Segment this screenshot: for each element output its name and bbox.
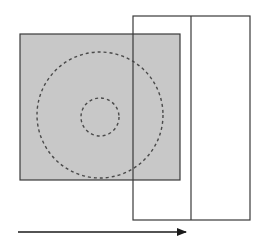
gray-square [20, 34, 180, 180]
diagram-canvas [0, 0, 268, 249]
